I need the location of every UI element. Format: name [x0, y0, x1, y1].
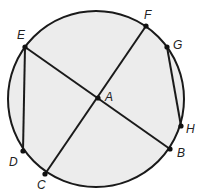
label-f: F	[144, 8, 152, 22]
point-a	[95, 95, 100, 100]
point-h	[178, 123, 183, 128]
label-c: C	[37, 178, 46, 189]
point-f	[143, 23, 148, 28]
circle-diagram: ABCDEFGH	[0, 0, 197, 189]
point-b	[167, 146, 172, 151]
point-g	[164, 44, 169, 49]
point-d	[20, 148, 25, 153]
label-a: A	[104, 90, 113, 104]
label-e: E	[17, 28, 26, 42]
label-d: D	[9, 155, 18, 169]
label-g: G	[173, 38, 182, 52]
point-e	[22, 44, 27, 49]
label-h: H	[186, 122, 195, 136]
point-c	[42, 171, 47, 176]
label-b: B	[177, 146, 185, 160]
